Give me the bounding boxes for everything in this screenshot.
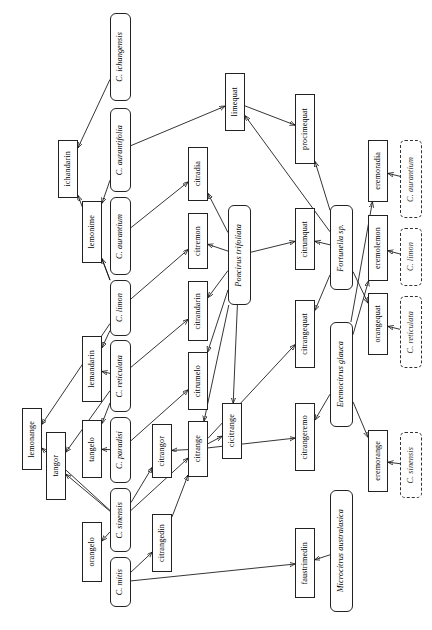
- node-label: faustrimedin: [301, 542, 309, 585]
- node-c_sinensis[interactable]: C. sinensis: [110, 488, 131, 552]
- node-label: C. reticulata: [407, 311, 415, 353]
- node-label: Poncirus trifoliata: [235, 224, 243, 287]
- node-citrumelo[interactable]: citrumelo: [188, 352, 208, 410]
- node-fortunella[interactable]: Fortunella sp.: [330, 205, 353, 290]
- edge-c_reticulata-to-citrandarin: [131, 319, 188, 367]
- node-label: citrumelo: [194, 365, 202, 397]
- node-label: C. reticulata: [116, 355, 124, 397]
- edge-ghost_aurantium-to-eremoradia: [388, 173, 400, 176]
- node-citrangequat[interactable]: citrangequat: [295, 300, 315, 368]
- node-label: ichandarin: [64, 151, 72, 187]
- node-citrangedin[interactable]: citrangedin: [152, 514, 172, 572]
- node-label: citrange: [194, 435, 202, 462]
- edge-poncirus-to-citrumelo: [208, 290, 228, 352]
- node-citrange[interactable]: citrange: [188, 421, 208, 477]
- node-label: C. limon: [116, 293, 124, 322]
- edge-eremocitrus-to-eremorange: [353, 402, 368, 438]
- node-label: eremoradia: [374, 152, 382, 190]
- edge-poncirus-to-citradia: [208, 194, 228, 233]
- node-label: C. aurantium: [407, 157, 415, 202]
- node-lemonange[interactable]: lemonange: [22, 408, 42, 470]
- node-label: C. sinensis: [116, 502, 124, 539]
- node-citrumquat[interactable]: citrumquat: [295, 208, 315, 270]
- node-ghost_limon[interactable]: C. limon: [400, 228, 422, 286]
- edge-eremocitrus-to-eremolemon: [353, 281, 369, 335]
- node-label: citrangedin: [158, 524, 166, 562]
- node-label: cicitrange: [228, 414, 236, 447]
- node-c_reticulata[interactable]: C. reticulata: [110, 340, 131, 412]
- node-orangequat[interactable]: orangequat: [368, 293, 388, 355]
- node-citradia[interactable]: citradia: [188, 147, 208, 201]
- edge-c_mitis-to-citrangedin: [131, 552, 152, 572]
- node-citrangor[interactable]: citrangor: [152, 424, 172, 478]
- node-label: C. paradisi: [116, 431, 124, 469]
- edge-microcitrus-to-faustrimedin: [315, 555, 330, 560]
- edge-c_aurantium-to-citradia: [131, 182, 188, 228]
- node-eremoradia[interactable]: eremoradia: [368, 140, 388, 202]
- node-c_aurantifolia[interactable]: C. aurantifolia: [110, 108, 131, 192]
- node-cicitrange[interactable]: cicitrange: [222, 403, 242, 459]
- node-label: citrangor: [158, 436, 166, 466]
- node-label: tangor: [52, 455, 60, 477]
- node-label: procimequat: [301, 108, 309, 150]
- node-label: citremon: [194, 226, 202, 256]
- node-limequat[interactable]: limequat: [225, 73, 245, 131]
- edge-citrange-to-citrangor: [172, 450, 188, 451]
- edge-ghost_sinensis-to-eremorange: [388, 462, 400, 464]
- edge-c_limon-to-lemonime: [102, 259, 110, 280]
- edge-c_sinensis-to-orangelo: [102, 532, 110, 541]
- node-eremolemon[interactable]: eremolemon: [368, 215, 388, 281]
- node-label: lemandarin: [88, 350, 96, 388]
- node-procimequat[interactable]: procimequat: [295, 94, 315, 164]
- node-label: citrangeremo: [301, 415, 309, 459]
- node-label: C. limon: [407, 242, 415, 271]
- edge-fortunella-to-citrangequat: [315, 275, 330, 311]
- node-citremon[interactable]: citremon: [188, 213, 208, 269]
- node-lemandarin[interactable]: lemandarin: [82, 336, 102, 402]
- node-label: citradia: [194, 161, 202, 186]
- edge-c_ichangensis-to-ichandarin: [78, 79, 110, 147]
- node-c_aurantium[interactable]: C. aurantium: [110, 197, 131, 275]
- node-lemonime[interactable]: lemonime: [82, 201, 102, 263]
- edge-fortunella-to-procimequat: [315, 162, 330, 211]
- edge-poncirus-to-citrandarin: [208, 271, 228, 298]
- node-poncirus[interactable]: Poncirus trifoliata: [228, 205, 251, 305]
- node-citrandarin[interactable]: citrandarin: [188, 281, 208, 341]
- node-citrangeremo[interactable]: citrangeremo: [295, 403, 315, 471]
- node-label: Eremocitrus glauca: [337, 341, 345, 407]
- node-label: orangelo: [88, 537, 96, 566]
- node-eremorange[interactable]: eremorange: [368, 430, 388, 492]
- edge-poncirus-to-citrumquat: [251, 241, 295, 252]
- citrus-hybrid-diagram: C. ichangensisC. aurantifoliaC. aurantiu…: [0, 0, 432, 630]
- edge-c_aurantifolia-to-limequat: [131, 106, 225, 145]
- node-tangor[interactable]: tangor: [46, 432, 66, 500]
- node-ghost_reticulata[interactable]: C. reticulata: [400, 296, 422, 368]
- node-label: lemonime: [88, 215, 96, 249]
- node-label: citrumquat: [301, 221, 309, 257]
- node-c_ichangensis[interactable]: C. ichangensis: [110, 13, 131, 101]
- node-eremocitrus[interactable]: Eremocitrus glauca: [330, 322, 353, 427]
- node-ghost_sinensis[interactable]: C. sinensis: [400, 432, 422, 498]
- node-tangelo[interactable]: tangelo: [82, 420, 102, 478]
- node-ghost_aurantium[interactable]: C. aurantium: [400, 140, 422, 218]
- node-label: limequat: [231, 87, 239, 116]
- edge-c_reticulata-to-tangelo: [102, 403, 110, 424]
- node-microcitrus[interactable]: Microcitrus australasica: [330, 490, 353, 612]
- node-label: Fortunella sp.: [337, 224, 345, 272]
- edge-c_reticulata-to-lemandarin: [102, 372, 110, 374]
- node-label: eremorange: [374, 441, 382, 481]
- node-c_limon[interactable]: C. limon: [110, 280, 131, 336]
- edge-citrangedin-to-citrange: [172, 475, 188, 517]
- node-c_mitis[interactable]: C. mitis: [110, 557, 131, 607]
- edge-ghost_limon-to-eremolemon: [388, 251, 400, 254]
- node-orangelo[interactable]: orangelo: [82, 522, 102, 582]
- node-c_paradisi[interactable]: C. paradisi: [110, 417, 131, 483]
- node-label: C. mitis: [116, 569, 124, 595]
- node-label: C. aurantium: [116, 214, 124, 259]
- edge-fortunella-to-limequat: [245, 116, 330, 232]
- node-faustrimedin[interactable]: faustrimedin: [295, 528, 315, 598]
- node-label: C. sinensis: [407, 447, 415, 484]
- node-ichandarin[interactable]: ichandarin: [58, 140, 78, 198]
- node-label: orangequat: [374, 305, 382, 342]
- edge-limequat-to-procimequat: [245, 106, 295, 125]
